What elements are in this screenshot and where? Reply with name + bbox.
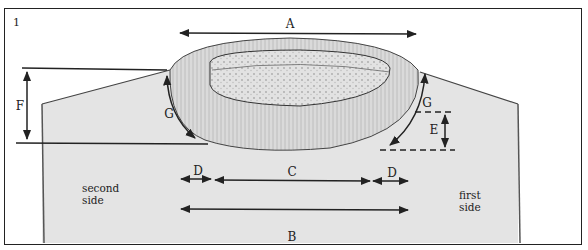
label-D-right: D [387, 166, 397, 180]
second-side-label: second side [82, 182, 119, 206]
first-side-label: first side [459, 189, 481, 213]
label-G-right: G [422, 96, 432, 110]
dimension-C-arrow [215, 180, 370, 181]
dimension-A-arrow [180, 33, 416, 34]
label-A: A [285, 17, 295, 31]
label-E: E [430, 123, 439, 137]
weld-diagram: 1 A F G G E D C D B [0, 0, 588, 250]
plate-right-edge [518, 104, 520, 243]
label-F: F [16, 99, 24, 113]
label-B: B [288, 230, 297, 244]
figure-number: 1 [13, 16, 20, 29]
label-D-left: D [193, 164, 203, 178]
dimension-B-arrow [181, 209, 408, 210]
label-G-left: G [164, 107, 174, 121]
label-C: C [287, 165, 296, 179]
